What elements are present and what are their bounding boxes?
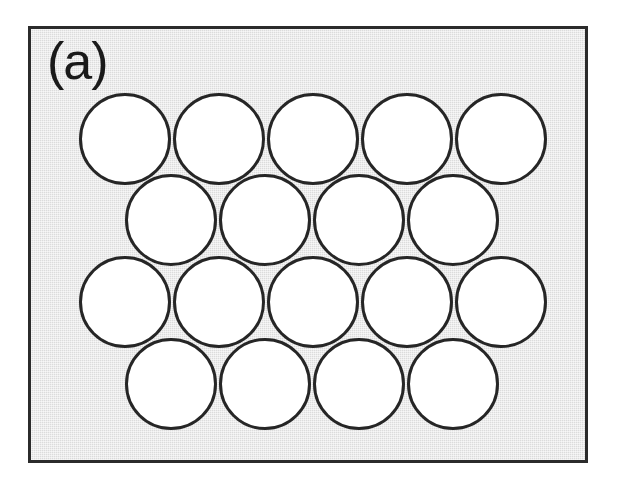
figure-root: (a): [0, 0, 625, 490]
sphere-r4-c4: [407, 338, 499, 430]
sphere-r2-c1: [125, 174, 217, 266]
sphere-r2-c4: [407, 174, 499, 266]
sphere-r1-c1: [79, 93, 171, 185]
sphere-r3-c2: [173, 256, 265, 348]
figure-panel: (a): [28, 26, 588, 463]
spheres-layer: [31, 29, 585, 460]
panel-label: (a): [47, 35, 108, 87]
sphere-r1-c4: [361, 93, 453, 185]
sphere-r1-c2: [173, 93, 265, 185]
sphere-r1-c5: [455, 93, 547, 185]
sphere-r3-c4: [361, 256, 453, 348]
sphere-r2-c2: [219, 174, 311, 266]
sphere-r4-c2: [219, 338, 311, 430]
sphere-r1-c3: [267, 93, 359, 185]
sphere-r3-c5: [455, 256, 547, 348]
sphere-r3-c1: [79, 256, 171, 348]
sphere-r2-c3: [313, 174, 405, 266]
sphere-r4-c3: [313, 338, 405, 430]
sphere-r3-c3: [267, 256, 359, 348]
sphere-r4-c1: [125, 338, 217, 430]
